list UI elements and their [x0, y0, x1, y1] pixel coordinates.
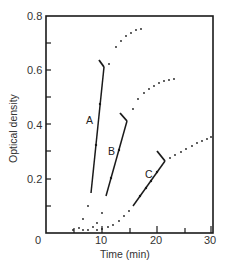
x-tick-label-20: 20 [150, 234, 162, 246]
x-tick-label-30: 30 [204, 234, 216, 246]
curve-label-a: A [86, 114, 93, 126]
y-axis-title: Optical density [7, 93, 19, 163]
optical-density-chart: 0.8 0.6 0.4 0.2 0 10 20 30 Time (min) Op… [0, 0, 229, 272]
origin-label: 0 [35, 234, 41, 246]
curve-label-c: C [145, 168, 153, 180]
plot-frame [46, 16, 213, 233]
y-tick-label-0.2: 0.2 [27, 173, 42, 185]
y-tick-label-0.8: 0.8 [27, 10, 42, 22]
y-tick-label-0.4: 0.4 [27, 119, 42, 131]
x-axis-title: Time (min) [100, 248, 150, 260]
curve-label-b: B [108, 145, 115, 157]
y-tick-label-0.6: 0.6 [27, 64, 42, 76]
series-a: A [72, 28, 142, 231]
series-b: B [82, 78, 175, 231]
chart-svg: 0.8 0.6 0.4 0.2 0 10 20 30 Time (min) Op… [0, 0, 229, 272]
x-tick-label-10: 10 [95, 234, 107, 246]
x-axis-ticks [74, 226, 211, 233]
